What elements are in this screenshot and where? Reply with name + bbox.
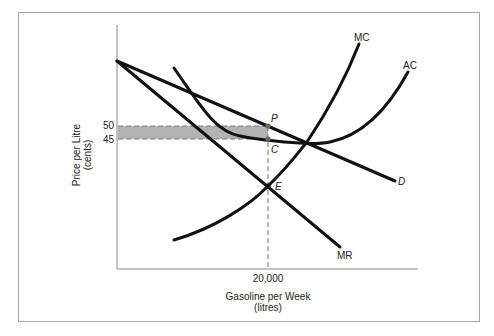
x-axis-title: Gasoline per Week — [226, 291, 312, 302]
label-d: D — [398, 176, 405, 187]
tick-50: 50 — [103, 120, 115, 131]
tick-45: 45 — [103, 134, 115, 145]
point-c — [265, 136, 270, 141]
label-c: C — [271, 144, 279, 155]
label-p: P — [271, 113, 278, 124]
label-e: E — [275, 181, 282, 192]
point-p — [265, 123, 270, 128]
y-axis-units: (cents) — [82, 140, 93, 171]
point-e — [265, 183, 270, 188]
label-mc: MC — [354, 32, 370, 43]
marginal-revenue-curve — [117, 61, 340, 247]
y-axis-title: Price per Litre — [71, 123, 82, 186]
x-axis-units: (litres) — [254, 302, 282, 313]
chart-canvas: MC AC D MR P C E 50 45 20,000 Gasoline p… — [0, 0, 494, 336]
tick-20000: 20,000 — [253, 273, 284, 284]
demand-curve — [117, 61, 395, 181]
label-mr: MR — [337, 250, 353, 261]
label-ac: AC — [403, 60, 417, 71]
